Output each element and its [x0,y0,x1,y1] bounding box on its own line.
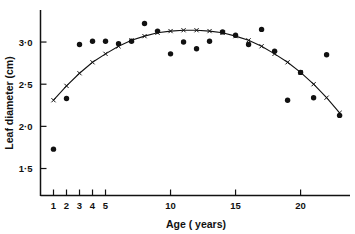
x-axis: 12345101520 [41,190,351,211]
data-point [77,42,82,47]
data-point [259,27,264,32]
data-point [233,33,238,38]
data-point [116,41,121,46]
y-tick-label: 1·5 [19,163,33,174]
scatter-data-points [51,21,343,152]
data-point [155,28,160,33]
y-tick-label: 2·0 [19,121,33,132]
x-tick-label: 3 [77,200,82,211]
data-point [181,39,186,44]
x-axis-tick-labels: 12345101520 [51,200,306,211]
x-tick-label: 2 [64,200,69,211]
fit-marker [51,98,55,102]
data-point [103,39,108,44]
y-axis-title: Leaf diameter (cm) [3,56,15,149]
data-point [142,21,147,26]
fit-marker [64,84,68,88]
fit-marker [77,71,81,75]
x-tick-label: 20 [295,200,306,211]
data-point [168,51,173,56]
fit-marker [90,60,94,64]
data-point [51,146,56,151]
data-point [129,39,134,44]
data-point [246,42,251,47]
y-tick-label: 2·5 [19,79,33,90]
y-axis: 1·52·02·53·0 [19,10,47,196]
fit-marker [311,82,315,86]
fit-marker [103,52,107,56]
data-point [64,96,69,101]
data-point [298,70,303,75]
data-point [194,46,199,51]
leaf-diameter-scatter-figure: 1·52·02·53·0 12345101520 Age ( years) Le… [0,0,355,234]
data-point [90,39,95,44]
x-tick-label: 1 [51,200,57,211]
data-point [324,52,329,57]
data-point [272,49,277,54]
fit-marker [285,60,289,64]
data-point [220,29,225,34]
chart-canvas: 1·52·02·53·0 12345101520 Age ( years) Le… [0,0,355,234]
x-axis-title: Age ( years) [166,218,226,230]
y-tick-label: 3·0 [19,37,33,48]
fitted-curve [54,30,340,113]
data-point [337,113,342,118]
x-axis-ticks [54,190,301,196]
x-tick-label: 10 [165,200,176,211]
fit-marker [324,96,328,100]
fit-marker [259,44,263,48]
y-axis-ticks [41,42,47,168]
x-tick-label: 4 [90,200,96,211]
data-point [311,95,316,100]
data-point [207,39,212,44]
x-tick-label: 15 [230,200,241,211]
data-point [285,98,290,103]
y-axis-tick-labels: 1·52·02·53·0 [19,37,33,174]
x-tick-label: 5 [103,200,109,211]
